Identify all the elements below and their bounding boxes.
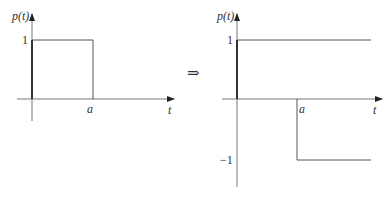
right-tick-one: 1	[227, 34, 233, 46]
right-y-label: p(t)	[217, 10, 234, 22]
diagram-canvas	[0, 0, 389, 199]
left-plot	[17, 14, 174, 121]
left-y-label: p(t)	[12, 10, 29, 22]
left-x-label: t	[168, 104, 171, 116]
right-tick-a: a	[299, 103, 305, 115]
right-tick-minus-one: −1	[220, 154, 233, 166]
implies-arrow: ⇒	[187, 66, 200, 81]
right-x-label: t	[373, 104, 376, 116]
right-step-down	[297, 99, 371, 160]
left-pulse	[32, 40, 93, 99]
left-tick-one: 1	[22, 34, 28, 46]
left-tick-a: a	[87, 103, 93, 115]
right-plot	[222, 14, 382, 187]
